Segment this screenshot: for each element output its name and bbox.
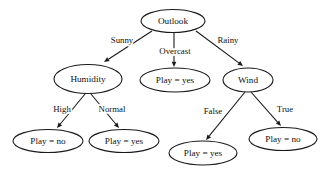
node-label: Wind — [238, 75, 258, 85]
node-humidity[interactable]: Humidity — [54, 65, 122, 94]
edge-label-text: High — [53, 104, 71, 114]
node-false_leaf[interactable]: Play = yes — [169, 141, 237, 165]
edge-label-wind-false: FalseFalse — [204, 106, 223, 116]
decision-tree-diagram: OutlookHumidityPlay = yesWindPlay = noPl… — [0, 0, 335, 172]
edge-arrowhead-icon — [237, 61, 243, 66]
edge-line — [251, 92, 278, 122]
edge-label-text: Overcast — [159, 46, 191, 56]
edge-arrowhead-icon — [172, 62, 177, 67]
edge-arrowhead-icon — [104, 57, 110, 62]
edge-label-humidity-normal: NormalNormal — [99, 104, 126, 114]
edge-label-text: Sunny — [111, 35, 134, 45]
edge-label-text: True — [277, 104, 293, 114]
node-label: Play = yes — [156, 75, 195, 85]
node-label: Humidity — [70, 74, 106, 84]
node-overcast_leaf[interactable]: Play = yes — [140, 68, 210, 92]
edge-label-outlook-sunny: SunnySunny — [111, 35, 134, 45]
node-label: Play = yes — [105, 136, 144, 146]
edge-label-text: Rainy — [217, 35, 239, 45]
node-high_leaf[interactable]: Play = no — [13, 130, 83, 153]
node-wind[interactable]: Wind — [223, 68, 273, 92]
edge-label-text: False — [204, 106, 223, 116]
node-true_leaf[interactable]: Play = no — [249, 128, 317, 151]
node-outlook[interactable]: Outlook — [141, 10, 205, 33]
node-label: Play = yes — [184, 148, 223, 158]
node-normal_leaf[interactable]: Play = yes — [89, 130, 159, 153]
nodes-layer: OutlookHumidityPlay = yesWindPlay = noPl… — [13, 10, 317, 166]
node-label: Outlook — [158, 16, 189, 26]
edge-label-text: Normal — [99, 104, 126, 114]
node-label: Play = no — [30, 136, 66, 146]
edge-label-outlook-overcast: OvercastOvercast — [159, 46, 191, 56]
edge-label-outlook-rainy: RainyRainy — [217, 35, 239, 45]
edge-label-humidity-high: HighHigh — [53, 104, 71, 114]
edge-label-wind-true: TrueTrue — [277, 104, 293, 114]
node-label: Play = no — [265, 134, 301, 144]
